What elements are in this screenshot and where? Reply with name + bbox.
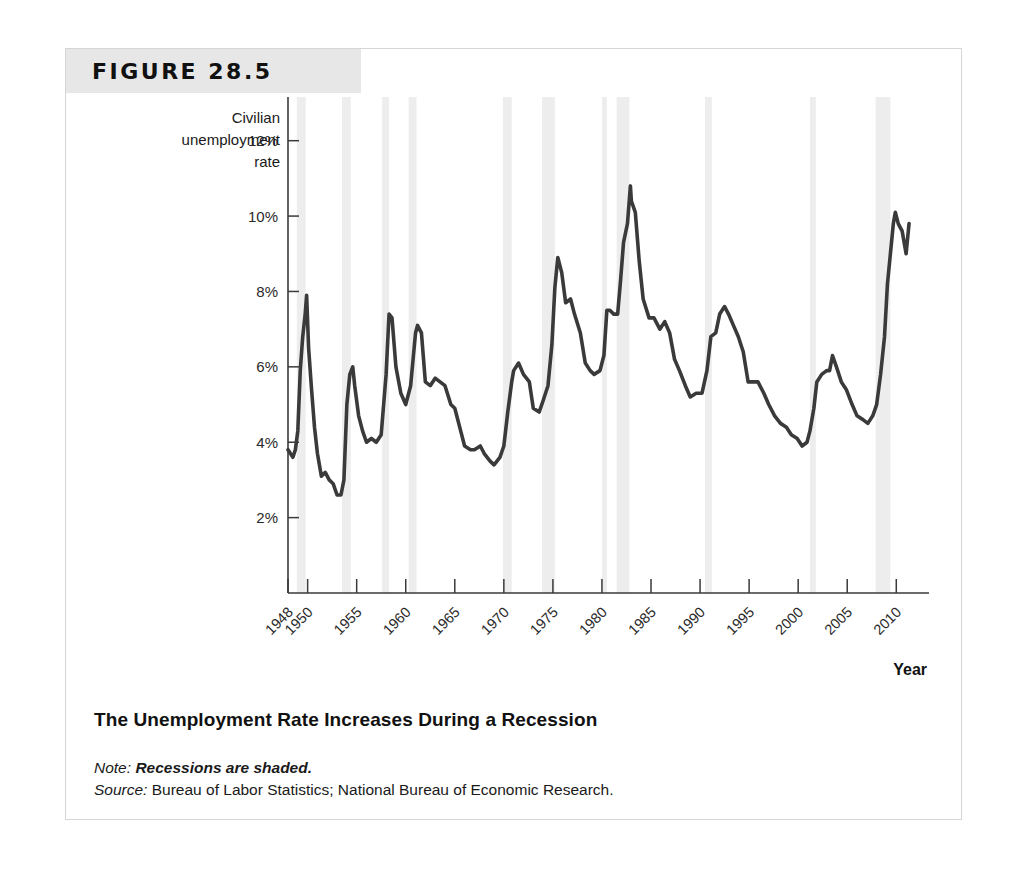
x-tick-label: 1985 [625, 604, 659, 638]
x-tick-label: 1995 [723, 604, 757, 638]
note-line: Note: Recessions are shaded. [94, 757, 934, 779]
x-tick-label: 1965 [429, 604, 463, 638]
note-keyword: Note: [94, 759, 131, 776]
figure-caption: The Unemployment Rate Increases During a… [94, 709, 934, 731]
y-axis-title: Civilianunemploymentrate [182, 109, 281, 170]
figure-number-banner: FIGURE 28.5 [66, 49, 361, 93]
y-tick-label: 2% [256, 509, 278, 526]
x-tick-label: 2005 [821, 604, 855, 638]
recession-band [342, 97, 351, 593]
y-tick-label: 8% [256, 283, 278, 300]
recession-band [617, 97, 630, 593]
source-keyword: Source: [94, 781, 147, 798]
x-tick-label: 1960 [380, 604, 414, 638]
y-axis-title-line: Civilian [232, 109, 280, 126]
source-line: Source: Bureau of Labor Statistics; Nati… [94, 779, 934, 801]
x-tick-label: 1955 [331, 604, 365, 638]
x-axis-title: Year [893, 661, 927, 678]
x-tick-label: 1990 [674, 604, 708, 638]
x-tick-label: 1970 [478, 604, 512, 638]
y-axis-ticks: 12%10%8%6%4%2% [248, 132, 299, 526]
x-axis-ticks: 1948195019551960196519701975198019851990… [262, 579, 904, 638]
data-line-group [288, 186, 909, 495]
x-tick-label: 1980 [576, 604, 610, 638]
y-tick-label: 10% [248, 208, 278, 225]
source-text: Bureau of Labor Statistics; National Bur… [152, 781, 614, 798]
y-axis-title-line: rate [254, 153, 280, 170]
chart-plot-area: 12%10%8%6%4%2% 1948195019551960196519701… [66, 93, 961, 713]
unemployment-rate-line [288, 186, 909, 495]
y-axis-title-line: unemployment [182, 131, 281, 148]
x-axis-title-label: Year [893, 661, 927, 678]
recession-band [503, 97, 512, 593]
x-tick-label: 2010 [870, 604, 904, 638]
unemployment-line-chart: 12%10%8%6%4%2% 1948195019551960196519701… [66, 93, 961, 713]
x-tick-label: 2000 [772, 604, 806, 638]
caption-block: The Unemployment Rate Increases During a… [94, 709, 934, 802]
figure-number-label: FIGURE 28.5 [92, 59, 273, 84]
y-tick-label: 6% [256, 358, 278, 375]
figure-panel: FIGURE 28.5 12%10%8%6%4%2% 1948195019551… [65, 48, 962, 820]
note-text: Recessions are shaded. [135, 759, 312, 776]
recession-band [810, 97, 816, 593]
x-tick-label: 1975 [527, 604, 561, 638]
y-tick-label: 4% [256, 434, 278, 451]
